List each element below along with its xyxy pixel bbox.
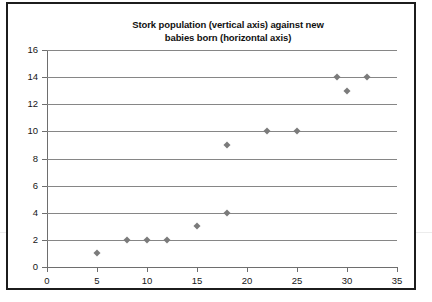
chart-page: Stork population (vertical axis) against…	[0, 0, 432, 302]
x-tick-0	[47, 267, 48, 272]
chart-title: Stork population (vertical axis) against…	[68, 19, 388, 44]
x-tick-label-20: 20	[232, 275, 262, 286]
x-tick-label-5: 5	[82, 275, 112, 286]
x-tick-25	[297, 267, 298, 272]
data-point	[223, 209, 230, 216]
x-axis-line	[47, 267, 398, 268]
y-tick-label-8: 8	[14, 153, 38, 164]
data-point	[123, 236, 130, 243]
data-point	[343, 87, 350, 94]
x-tick-20	[247, 267, 248, 272]
data-point	[163, 236, 170, 243]
x-tick-label-15: 15	[182, 275, 212, 286]
figure-frame: Stork population (vertical axis) against…	[6, 2, 416, 290]
y-tick-label-12: 12	[14, 98, 38, 109]
plot-area	[47, 50, 397, 267]
y-tick-label-16: 16	[14, 44, 38, 55]
data-point	[143, 236, 150, 243]
y-tick-label-6: 6	[14, 180, 38, 191]
data-point	[193, 223, 200, 230]
y-tick-label-14: 14	[14, 71, 38, 82]
x-tick-label-10: 10	[132, 275, 162, 286]
x-tick-15	[197, 267, 198, 272]
data-point	[333, 74, 340, 81]
x-tick-label-25: 25	[282, 275, 312, 286]
data-point	[223, 141, 230, 148]
chart-title-line-2: babies born (horizontal axis)	[68, 32, 388, 45]
x-tick-label-30: 30	[332, 275, 362, 286]
chart-title-line-1: Stork population (vertical axis) against…	[68, 19, 388, 32]
data-point	[293, 128, 300, 135]
data-point	[363, 74, 370, 81]
y-tick-label-4: 4	[14, 207, 38, 218]
x-tick-30	[347, 267, 348, 272]
x-tick-label-35: 35	[382, 275, 412, 286]
data-point	[93, 250, 100, 257]
data-point	[263, 128, 270, 135]
x-tick-10	[147, 267, 148, 272]
y-tick-label-0: 0	[14, 261, 38, 272]
x-tick-35	[397, 267, 398, 272]
y-axis-labels: 0246810121416	[10, 50, 38, 268]
x-tick-5	[97, 267, 98, 272]
y-tick-label-2: 2	[14, 234, 38, 245]
y-tick-label-10: 10	[14, 125, 38, 136]
x-tick-label-0: 0	[32, 275, 62, 286]
